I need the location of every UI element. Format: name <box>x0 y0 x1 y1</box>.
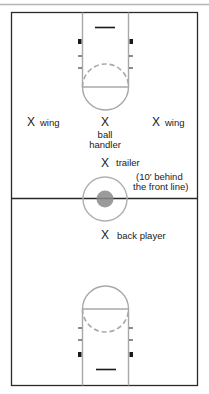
ball-handler-label-line2: handler <box>86 140 124 150</box>
trailer-label: trailer <box>116 158 140 168</box>
left-wing-marker: X <box>27 116 35 128</box>
top-key <box>78 13 133 111</box>
bottom-key <box>78 286 133 386</box>
bottom-block-left <box>78 352 82 357</box>
top-free-throw-arc-solid <box>83 87 129 110</box>
top-block-left <box>78 39 82 44</box>
right-wing-marker: X <box>152 116 160 128</box>
bottom-free-throw-arc-dashed <box>83 309 129 332</box>
basketball-court <box>0 0 209 394</box>
top-free-throw-arc-dashed <box>83 64 129 87</box>
center-dot <box>97 191 114 208</box>
back-player-label: back player <box>117 231 166 241</box>
trailer-note: (10′ behind the front line) <box>133 172 188 192</box>
trailer-marker: X <box>101 157 109 169</box>
bottom-free-throw-arc-solid <box>83 286 129 309</box>
ball-handler-label: ball handler <box>86 130 124 150</box>
left-wing-label: wing <box>40 118 60 128</box>
right-wing-label: wing <box>165 118 185 128</box>
trailer-note-line2: the front line) <box>133 182 188 192</box>
top-block-right <box>130 39 134 44</box>
back-player-marker: X <box>101 229 109 241</box>
ball-handler-marker: X <box>101 116 109 128</box>
bottom-block-right <box>130 352 134 357</box>
